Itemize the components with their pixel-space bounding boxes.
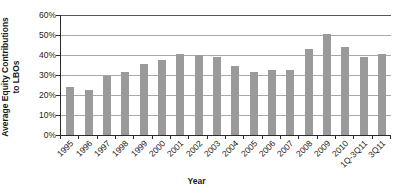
bar [231, 66, 239, 135]
bar-series [61, 15, 391, 135]
plot-area [60, 15, 391, 135]
bar [268, 70, 276, 135]
bar [213, 57, 221, 135]
y-axis-title-line-1: Average Equity Contributions [0, 10, 11, 144]
y-axis-tick-label: 10% [26, 111, 56, 120]
bar [250, 72, 258, 135]
y-axis-tick-label: 60% [26, 11, 56, 20]
bar [195, 55, 203, 135]
bar [85, 90, 93, 135]
bar [341, 47, 349, 135]
bar [103, 76, 111, 135]
y-axis-title: Average Equity Contributions to LBOs [0, 10, 28, 144]
bar [140, 64, 148, 135]
bar [378, 54, 386, 135]
x-axis-tick-labels: 1995199619971998199920002001200220032004… [60, 139, 393, 179]
bar [305, 49, 313, 135]
y-axis-title-line-2: to LBOs [11, 10, 22, 144]
bar [121, 72, 129, 135]
y-axis-tick-label: 0% [26, 131, 56, 140]
y-axis-tick-label: 50% [26, 31, 56, 40]
bar [176, 54, 184, 135]
y-axis-tick-label: 40% [26, 51, 56, 60]
bar [360, 57, 368, 135]
bar-chart: Average Equity Contributions to LBOs 0%1… [0, 0, 393, 194]
bar [66, 87, 74, 135]
bar [323, 34, 331, 135]
y-axis-tick-label: 30% [26, 71, 56, 80]
y-axis-tick-label: 20% [26, 91, 56, 100]
bar [286, 70, 294, 135]
x-axis-title: Year [0, 176, 393, 186]
bar [158, 60, 166, 135]
